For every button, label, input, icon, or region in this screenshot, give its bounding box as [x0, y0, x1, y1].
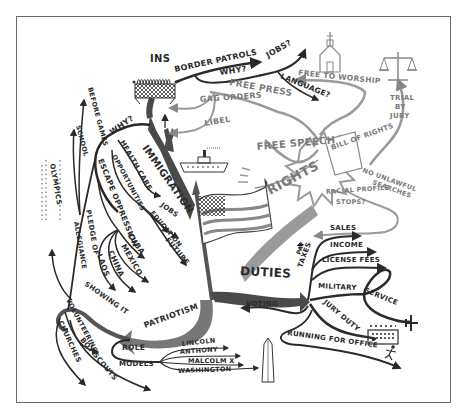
- free-speech-label: FREE SPEECH: [256, 134, 336, 152]
- military-label: MILITARY: [318, 282, 358, 292]
- airplane-icon: [405, 315, 418, 331]
- trial-by-jury-line: [370, 80, 403, 165]
- trial-label: TRIAL: [390, 94, 414, 102]
- why-top-label: WHY?: [219, 64, 247, 77]
- license-fees-label: LICENSE FEES: [322, 256, 380, 264]
- ins-label: INS: [150, 53, 170, 64]
- mind-map-lines: INS BORDER PATROLS WHY? JOBS? LANGUAGE? …: [0, 0, 468, 419]
- models-label: MODELS: [119, 360, 154, 368]
- monument-icon: [262, 338, 274, 382]
- jobs-q-label: JOBS?: [264, 38, 293, 60]
- sales-label: SALES: [330, 224, 356, 232]
- racial-profile-label: RACIAL PROFILE: [326, 184, 390, 196]
- searches-stops-line: [315, 190, 398, 236]
- before-games-line: [79, 100, 84, 215]
- jury-duty-label: JURY DUTY: [321, 298, 362, 334]
- voting-label: VOTING: [246, 300, 278, 308]
- washington-label: WASHINGTON: [178, 365, 232, 375]
- scales-icon: [379, 52, 417, 80]
- olympics-line: [52, 250, 72, 300]
- jury-label: JURY: [389, 112, 410, 120]
- running-figure-icon: [385, 345, 396, 360]
- by-label: BY: [395, 103, 406, 111]
- duties-label: DUTIES: [240, 264, 292, 281]
- olympics-label: OLYMPICS: [48, 163, 63, 206]
- pledge-of-label: PLEDGE OF: [84, 209, 100, 256]
- malcolm-x-label: MALCOLM X: [188, 357, 235, 365]
- income-label: INCOME: [330, 241, 363, 249]
- role-label: ROLE: [122, 343, 145, 352]
- american-flag-icon: [192, 180, 272, 300]
- fence-icon: [133, 80, 178, 105]
- libel-label: LIBEL: [204, 115, 231, 128]
- service-label: SERVICE: [363, 286, 399, 307]
- showing-it-label: SHOWING IT: [83, 280, 130, 316]
- anthony-label: ANTHONY: [180, 345, 219, 356]
- patriotism-label: PATRIOTISM: [143, 302, 200, 330]
- before-games-label: BEFORE GAMES: [86, 86, 109, 147]
- stops-label: STOPS?: [336, 198, 366, 206]
- boy-scouts-label: BOY SCOUTS: [78, 336, 118, 382]
- military-service-line: [310, 270, 412, 322]
- church-icon: [320, 32, 340, 72]
- school-label: SCHOOL: [74, 124, 90, 157]
- running-for-office-label: RUNNING FOR OFFICE: [287, 329, 379, 350]
- ship-icon: [180, 148, 228, 172]
- free-speech-motion-lines: [238, 168, 250, 182]
